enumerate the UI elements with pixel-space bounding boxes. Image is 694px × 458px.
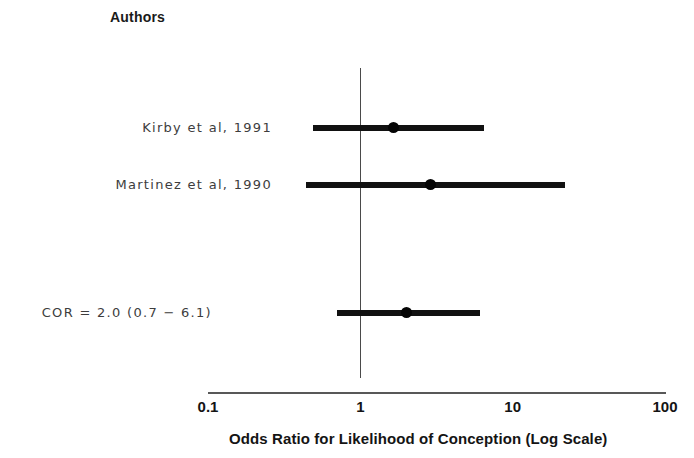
forest-plot-figure: Authors Kirby et al, 1991 Martinez et al… — [0, 0, 694, 458]
x-axis-title: Odds Ratio for Likelihood of Conception … — [229, 430, 607, 447]
point-estimate-marker-kirby — [388, 122, 399, 133]
plot-area: 0.1 1 10 100 Odds Ratio for Likelihood o… — [0, 0, 694, 458]
x-axis-line — [208, 392, 666, 394]
x-axis-tick-label-0.1: 0.1 — [198, 398, 219, 415]
null-reference-line — [360, 68, 361, 378]
x-axis-tick-label-1: 1 — [356, 398, 364, 415]
x-axis-tick-label-100: 100 — [652, 398, 677, 415]
point-estimate-marker-summary — [401, 307, 412, 318]
point-estimate-marker-martinez — [425, 179, 436, 190]
x-axis-tick-label-10: 10 — [504, 398, 521, 415]
